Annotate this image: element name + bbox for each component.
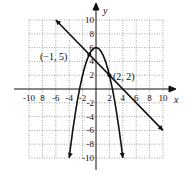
x-tick-label: 4	[121, 93, 126, 103]
x-axis-arrow-icon	[169, 86, 176, 92]
y-axis-arrow-icon	[93, 3, 99, 10]
intersection-point	[107, 73, 111, 77]
y-tick-label: -10	[82, 153, 94, 163]
point-label-a: (−1, 5)	[40, 51, 67, 63]
point-label-b: (2, 2)	[113, 71, 135, 83]
x-tick-label: 8	[147, 93, 152, 103]
y-tick-label: 8	[90, 29, 95, 39]
x-tick-label: -4	[65, 93, 73, 103]
x-axis-label: x	[173, 94, 179, 105]
x-tick-label: 10	[159, 93, 169, 103]
y-tick-label: 2	[90, 70, 95, 80]
x-tick-label: -2	[79, 93, 87, 103]
intersection-point	[87, 53, 91, 57]
x-tick-label: -6	[52, 93, 60, 103]
y-tick-label: -4	[87, 112, 95, 122]
x-tick-label: 8	[40, 93, 45, 103]
y-tick-label: -2	[87, 98, 95, 108]
y-axis-label: y	[102, 5, 108, 16]
x-tick-label: 2	[107, 93, 112, 103]
y-tick-label: -8	[87, 139, 95, 149]
x-tick-label: -10	[23, 93, 35, 103]
graph: -108-6-4-2246810-10-8-6-4-2246810 x y (−…	[0, 0, 187, 178]
axes	[14, 3, 176, 170]
y-tick-label: 10	[85, 15, 95, 25]
y-tick-label: -6	[87, 125, 95, 135]
